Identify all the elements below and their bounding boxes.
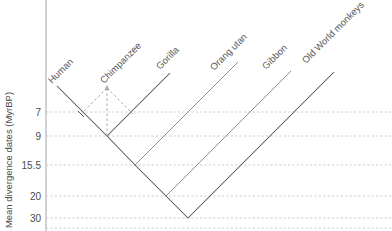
branch-hominoid-to-hominid	[135, 165, 166, 196]
figure-container: 7 9 15.5 20 30 Mean divergence dates (My…	[0, 0, 392, 231]
y-tick-label-7: 7	[35, 107, 41, 118]
branch-human	[57, 86, 107, 136]
phylogenetic-tree-chart: 7 9 15.5 20 30 Mean divergence dates (My…	[0, 0, 392, 231]
gridlines	[46, 112, 392, 228]
branch-orang-utan	[135, 62, 238, 165]
branch-chimpanzee-dashed-right	[107, 88, 133, 114]
tip-label-old-world-monkeys: Old World monkeys	[300, 0, 366, 65]
branch-hominid-to-hominine	[107, 136, 135, 165]
y-tick-label-15-5: 15.5	[22, 160, 42, 171]
tip-label-chimpanzee: Chimpanzee	[98, 40, 143, 85]
chimpanzee-arrow-icon	[104, 85, 109, 90]
y-tick-label-20: 20	[30, 191, 42, 202]
tip-labels: Human Chimpanzee Gorilla Orang utan Gibb…	[46, 0, 366, 85]
y-axis-title: Mean divergence dates (MyrBP)	[3, 92, 14, 228]
tip-label-gorilla: Gorilla	[154, 44, 182, 72]
y-tick-labels: 7 9 15.5 20 30	[22, 107, 42, 224]
y-tick-label-9: 9	[35, 131, 41, 142]
branch-chimpanzee-dashed-left	[82, 88, 107, 113]
tip-label-gibbon: Gibbon	[260, 42, 289, 71]
branch-root-to-hominoid	[166, 196, 188, 218]
y-tick-label-30: 30	[30, 213, 42, 224]
tip-label-orang-utan: Orang utan	[208, 31, 249, 72]
branch-gorilla	[107, 73, 170, 136]
tip-label-human: Human	[46, 56, 75, 85]
